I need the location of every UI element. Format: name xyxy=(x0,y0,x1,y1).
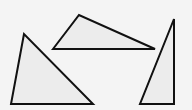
triangles-diagram xyxy=(0,0,192,110)
